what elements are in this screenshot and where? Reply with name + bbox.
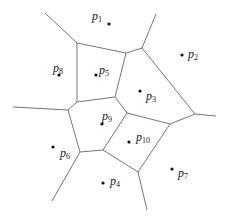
site-label-subscript: 2 (194, 53, 198, 62)
site-label-subscript: 10 (142, 136, 150, 145)
site-point-p4 (101, 181, 104, 184)
site-point-p1 (107, 22, 110, 25)
site-label-p9: p9 (102, 110, 112, 124)
site-label-p3: p3 (146, 90, 156, 104)
voronoi-edge (80, 150, 103, 152)
site-label-subscript: 9 (108, 115, 112, 124)
voronoi-edge (115, 53, 126, 97)
site-label-p10: p10 (136, 131, 150, 145)
voronoi-edge (77, 43, 126, 53)
voronoi-edge (103, 150, 138, 172)
site-label-p8: p8 (53, 62, 63, 76)
voronoi-edge (68, 102, 77, 110)
voronoi-edge (68, 110, 80, 152)
site-label-subscript: 7 (184, 172, 188, 181)
voronoi-edge (45, 13, 77, 43)
site-label-subscript: 1 (98, 15, 102, 24)
site-label-p2: p2 (188, 48, 198, 62)
site-label-p5: p5 (99, 64, 109, 78)
voronoi-edge (138, 172, 147, 210)
site-label-p1: p1 (92, 10, 102, 24)
site-point-p6 (51, 145, 54, 148)
voronoi-edge (127, 113, 170, 124)
site-label-subscript: 4 (116, 180, 120, 189)
site-label-p7: p7 (178, 167, 188, 181)
voronoi-edge (170, 114, 195, 124)
site-label-subscript: 6 (66, 152, 70, 161)
site-label-subscript: 3 (152, 95, 156, 104)
site-label-p4: p4 (110, 175, 120, 189)
voronoi-edge (126, 48, 142, 53)
site-label-subscript: 5 (105, 69, 109, 78)
voronoi-edge (195, 114, 216, 116)
site-point-p7 (170, 167, 173, 170)
voronoi-edge (115, 97, 127, 113)
site-label-p6: p6 (60, 147, 70, 161)
site-label-subscript: 8 (59, 67, 63, 76)
voronoi-diagram: p1p2p3p4p5p6p7p8p9p10 (0, 0, 228, 220)
site-point-p5 (94, 73, 97, 76)
voronoi-edge (13, 107, 68, 110)
voronoi-edge (142, 14, 156, 48)
site-point-p3 (138, 89, 141, 92)
site-point-p2 (180, 53, 183, 56)
voronoi-edge (77, 97, 115, 102)
site-point-p10 (127, 140, 130, 143)
